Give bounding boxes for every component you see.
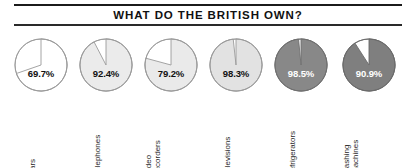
pie-chart-washing-machines[interactable]: 90.9%: [340, 36, 398, 94]
category-label-line: recorders: [153, 140, 162, 168]
category-label-text: telephones: [93, 135, 102, 168]
category-label-cars: cars: [12, 96, 70, 168]
pie-graphic: [77, 36, 135, 94]
pie-chart-row: 69.7%92.4%79.2%98.3%98.5%90.9%: [0, 36, 415, 94]
pie-graphic: [142, 36, 200, 94]
pie-chart-televisions[interactable]: 98.3%: [207, 36, 265, 94]
pie-graphic: [272, 36, 330, 94]
chart-figure: WHAT DO THE BRITISH OWN? 69.7%92.4%79.2%…: [0, 0, 415, 168]
pie-graphic: [12, 36, 70, 94]
pie-graphic: [340, 36, 398, 94]
chart-title-block: WHAT DO THE BRITISH OWN?: [14, 4, 402, 26]
pie-chart-refrigerators[interactable]: 98.5%: [272, 36, 330, 94]
category-label-text: televisions: [223, 137, 232, 168]
category-label-line: refrigerators: [288, 131, 297, 168]
pie-graphic: [207, 36, 265, 94]
title-rule-bottom: [14, 24, 402, 26]
pie-chart-telephones[interactable]: 92.4%: [77, 36, 135, 94]
category-label-line: telephones: [93, 135, 102, 168]
pie-chart-video-recorders[interactable]: 79.2%: [142, 36, 200, 94]
category-label-text: refrigerators: [288, 131, 297, 168]
category-label-text: cars: [28, 159, 37, 168]
category-label-text: washingmachines: [342, 140, 360, 168]
category-label-line: video: [144, 140, 153, 168]
category-label-line: televisions: [223, 137, 232, 168]
category-label-refrigerators: refrigerators: [272, 96, 330, 168]
category-label-line: machines: [351, 140, 360, 168]
category-label-telephones: telephones: [77, 96, 135, 168]
category-label-text: videorecorders: [144, 140, 162, 168]
category-label-row: carstelephonesvideorecorderstelevisionsr…: [0, 96, 415, 168]
pie-chart-cars[interactable]: 69.7%: [12, 36, 70, 94]
category-label-video-recorders: videorecorders: [142, 96, 200, 168]
category-label-line: washing: [342, 140, 351, 168]
category-label-televisions: televisions: [207, 96, 265, 168]
category-label-line: cars: [28, 159, 37, 168]
page-title: WHAT DO THE BRITISH OWN?: [14, 6, 402, 24]
category-label-washing-machines: washingmachines: [340, 96, 398, 168]
